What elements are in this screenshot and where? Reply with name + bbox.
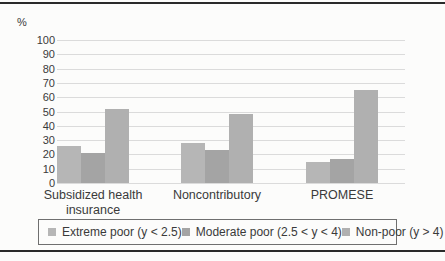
y-tick-label: 20: [16, 148, 55, 160]
bar-group: [57, 40, 129, 183]
legend-item: Non-poor (y > 4): [342, 225, 444, 239]
legend-swatch-icon: [182, 228, 190, 236]
plot-area: [57, 40, 405, 183]
top-rule: [0, 2, 445, 4]
legend: Extreme poor (y < 2.5)Moderate poor (2.5…: [38, 219, 397, 245]
bar: [81, 153, 105, 183]
y-tick-label: 80: [16, 63, 55, 75]
legend-label: Non-poor (y > 4): [356, 225, 444, 239]
legend-swatch-icon: [342, 228, 350, 236]
gridline: [57, 183, 405, 184]
bar: [330, 159, 354, 183]
y-tick-label: 70: [16, 77, 55, 89]
category-label: PROMESE: [262, 188, 422, 203]
bar-group: [181, 40, 253, 183]
bar: [105, 109, 129, 183]
y-tick-label: 30: [16, 134, 55, 146]
y-tick-label: 100: [16, 34, 55, 46]
y-tick-label: 50: [16, 106, 55, 118]
bar: [205, 150, 229, 183]
category-label: Subsidized health insurance: [33, 188, 153, 219]
bar-group: [306, 40, 378, 183]
bar: [229, 114, 253, 183]
legend-item: Moderate poor (2.5 < y < 4): [182, 225, 342, 239]
legend-label: Moderate poor (2.5 < y < 4): [196, 225, 342, 239]
y-tick-label: 60: [16, 91, 55, 103]
bar: [354, 90, 378, 183]
bar: [57, 146, 81, 183]
y-tick-label: 10: [16, 163, 55, 175]
legend-label: Extreme poor (y < 2.5): [62, 225, 182, 239]
legend-item: Extreme poor (y < 2.5): [48, 225, 182, 239]
legend-swatch-icon: [48, 228, 56, 236]
bottom-rule: [0, 250, 445, 252]
figure: % 1009080706050403020100 Subsidized heal…: [0, 0, 445, 261]
y-tick-label: 90: [16, 48, 55, 60]
y-axis-unit-label: %: [12, 16, 32, 28]
bar: [306, 162, 330, 183]
y-tick-label: 40: [16, 120, 55, 132]
bar: [181, 143, 205, 183]
